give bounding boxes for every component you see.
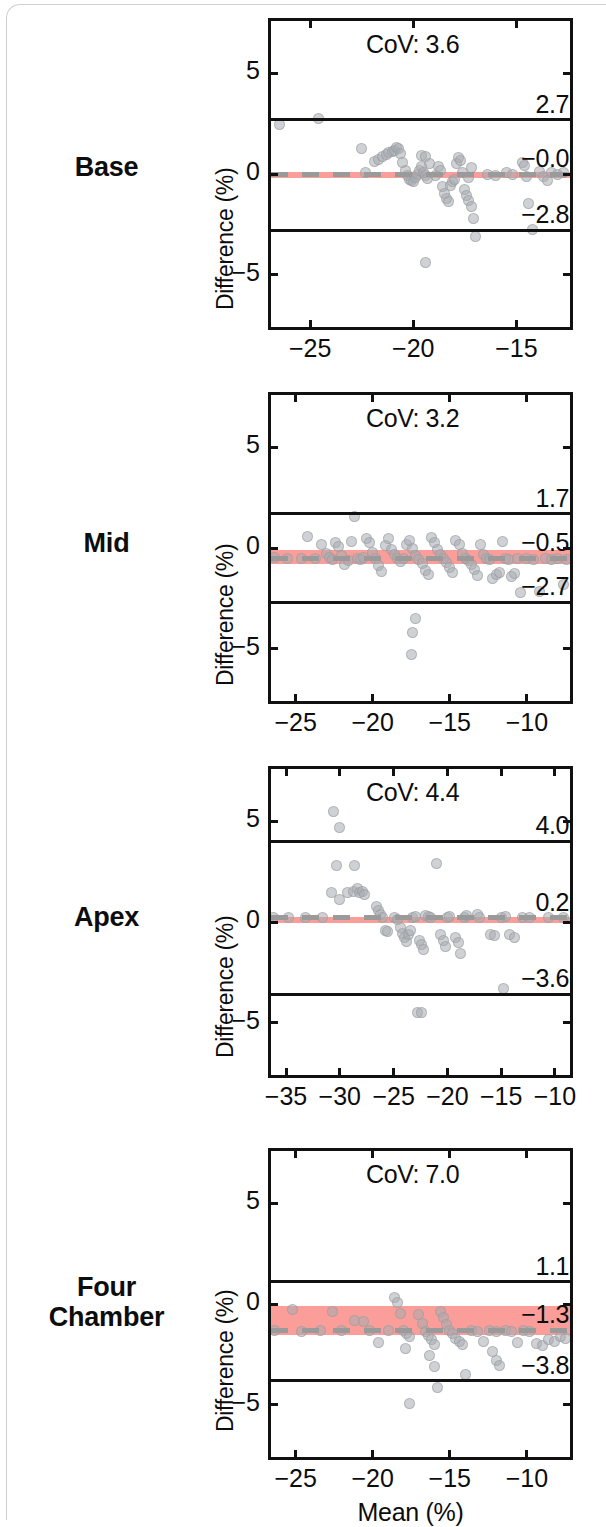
x-tick-3-2 xyxy=(392,1068,395,1075)
y-tick-right-1-1 xyxy=(563,173,570,176)
data-point xyxy=(494,1360,505,1371)
data-point xyxy=(472,570,483,581)
y-tick-right-2-1 xyxy=(563,547,570,550)
x-tick-2-0 xyxy=(294,694,297,701)
data-point xyxy=(327,1306,338,1317)
y-tick-2-1 xyxy=(271,547,278,550)
x-tick-top-3-5 xyxy=(553,769,556,776)
y-tick-1-0 xyxy=(271,72,278,75)
x-tick-label-4-1: −20 xyxy=(352,1464,394,1493)
data-point xyxy=(287,1304,298,1315)
y-tick-4-0 xyxy=(271,1202,278,1205)
y-tick-right-1-2 xyxy=(563,273,570,276)
x-tick-top-3-4 xyxy=(500,769,503,776)
data-point xyxy=(420,257,431,268)
x-tick-4-2 xyxy=(448,1450,451,1457)
row-label-2: Mid xyxy=(14,528,199,558)
upper-loa-line-3 xyxy=(271,840,570,843)
x-tick-label-3-4: −15 xyxy=(480,1082,522,1111)
y-tick-3-2 xyxy=(271,1021,278,1024)
y-tick-right-1-0 xyxy=(563,72,570,75)
data-point xyxy=(509,932,520,943)
x-tick-top-3-3 xyxy=(446,769,449,776)
lower-loa-label-3: −3.6 xyxy=(521,964,569,993)
data-point xyxy=(466,201,477,212)
x-tick-label-2-2: −15 xyxy=(429,708,471,737)
upper-loa-label-3: 4.0 xyxy=(535,811,569,840)
x-tick-label-4-2: −15 xyxy=(429,1464,471,1493)
x-tick-top-3-2 xyxy=(392,769,395,776)
data-point xyxy=(423,569,434,580)
data-point xyxy=(455,948,466,959)
x-tick-label-1-1: −20 xyxy=(392,334,434,363)
data-point xyxy=(410,613,421,624)
data-point xyxy=(404,1398,415,1409)
data-point xyxy=(429,1339,440,1350)
data-point xyxy=(478,1336,489,1347)
mean-label-2: −0.5 xyxy=(521,528,569,557)
data-point xyxy=(416,1007,427,1018)
data-point xyxy=(560,1333,571,1344)
data-point xyxy=(346,536,357,547)
y-tick-right-4-1 xyxy=(563,1303,570,1306)
x-tick-top-2-2 xyxy=(448,395,451,402)
x-tick-label-3-5: −10 xyxy=(534,1082,576,1111)
y-tick-right-2-2 xyxy=(563,647,570,650)
x-tick-3-0 xyxy=(285,1068,288,1075)
data-point xyxy=(400,1343,411,1354)
data-point xyxy=(424,1350,435,1361)
y-tick-3-0 xyxy=(271,820,278,823)
data-point xyxy=(455,155,466,166)
data-point xyxy=(509,568,520,579)
x-tick-3-3 xyxy=(446,1068,449,1075)
data-point xyxy=(359,889,370,900)
x-tick-top-3-0 xyxy=(285,769,288,776)
x-tick-top-4-1 xyxy=(371,1151,374,1158)
data-point xyxy=(302,531,313,542)
upper-loa-label-1: 2.7 xyxy=(535,90,569,119)
x-axis-title: Mean (%) xyxy=(358,1498,464,1527)
data-point xyxy=(432,1382,443,1393)
x-tick-3-5 xyxy=(553,1068,556,1075)
data-point xyxy=(356,143,367,154)
x-tick-top-3-1 xyxy=(338,769,341,776)
cov-label-4: CoV: 7.0 xyxy=(366,1160,459,1189)
data-point xyxy=(418,944,429,955)
data-point xyxy=(376,566,387,577)
data-point xyxy=(373,1337,384,1348)
y-tick-2-0 xyxy=(271,446,278,449)
x-tick-label-2-1: −20 xyxy=(352,708,394,737)
x-tick-top-2-1 xyxy=(371,395,374,402)
y-tick-1-1 xyxy=(271,173,278,176)
y-tick-right-4-2 xyxy=(563,1403,570,1406)
x-tick-label-3-0: −35 xyxy=(265,1082,307,1111)
y-tick-label-3-0: 5 xyxy=(192,804,260,833)
data-point xyxy=(382,926,393,937)
data-point xyxy=(494,567,505,578)
y-tick-label-1-2: −5 xyxy=(192,258,260,287)
data-point xyxy=(457,1339,468,1350)
x-tick-top-4-2 xyxy=(448,1151,451,1158)
data-point xyxy=(383,533,394,544)
data-point xyxy=(497,536,508,547)
x-tick-top-1-0 xyxy=(309,21,312,28)
y-tick-2-2 xyxy=(271,647,278,650)
y-tick-label-2-2: −5 xyxy=(192,632,260,661)
data-point xyxy=(331,860,342,871)
row-label-3: Apex xyxy=(14,902,199,932)
y-axis-title-2: Difference (%) xyxy=(212,544,239,686)
x-tick-label-1-2: −15 xyxy=(495,334,537,363)
y-tick-label-2-1: 0 xyxy=(192,531,260,560)
y-tick-right-3-1 xyxy=(563,921,570,924)
lower-loa-label-2: −2.7 xyxy=(521,572,569,601)
data-point xyxy=(453,937,464,948)
x-tick-4-1 xyxy=(371,1450,374,1457)
lower-loa-label-4: −3.8 xyxy=(521,1351,569,1380)
x-tick-4-3 xyxy=(525,1450,528,1457)
data-point xyxy=(349,860,360,871)
x-tick-top-4-3 xyxy=(525,1151,528,1158)
x-tick-2-3 xyxy=(525,694,528,701)
x-tick-label-3-3: −20 xyxy=(426,1082,468,1111)
y-tick-4-2 xyxy=(271,1403,278,1406)
x-tick-label-1-0: −25 xyxy=(289,334,331,363)
